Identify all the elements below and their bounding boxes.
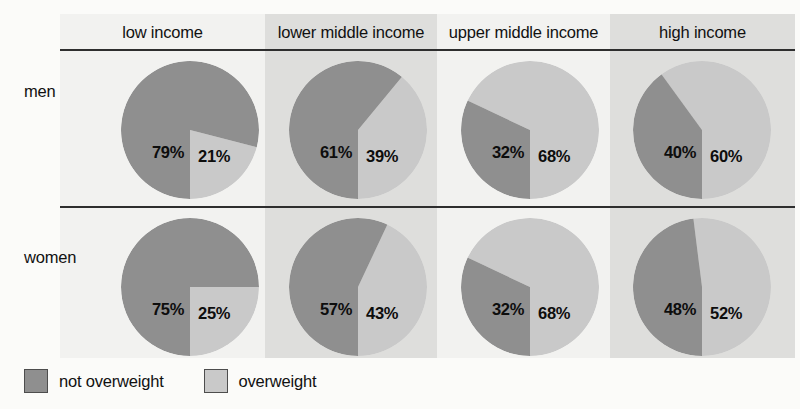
column-header-label: high income <box>659 23 746 42</box>
column-header-label: upper middle income <box>449 23 598 42</box>
pie-slice-label-overweight: 52% <box>710 304 742 323</box>
pie-cell-men-upper-middle-income: 32% 68% <box>450 55 610 205</box>
pie-slice-label-not-overweight: 32% <box>492 300 524 319</box>
column-header-high-income: high income <box>610 16 795 48</box>
pie-chart <box>289 218 427 356</box>
column-header-lower-middle-income: lower middle income <box>265 16 437 48</box>
column-header-row: low income lower middle income upper mid… <box>60 16 795 48</box>
row-label-women: women <box>24 248 104 267</box>
pie-slice-label-overweight: 21% <box>198 147 230 166</box>
legend-label: not overweight <box>59 372 164 391</box>
legend-swatch-not-overweight <box>24 369 48 393</box>
pie-slice-label-not-overweight: 57% <box>320 300 352 319</box>
pie-cell-women-high-income: 48% 52% <box>622 212 782 362</box>
pie-slice-label-not-overweight: 32% <box>492 143 524 162</box>
pie-cell-women-lower-middle-income: 57% 43% <box>278 212 438 362</box>
pie-chart <box>121 218 259 356</box>
pie-cell-women-low-income: 75% 25% <box>110 212 270 362</box>
pie-cell-women-upper-middle-income: 32% 68% <box>450 212 610 362</box>
pie-slice-label-overweight: 39% <box>366 147 398 166</box>
legend-label: overweight <box>239 372 317 391</box>
pie-chart <box>461 61 599 199</box>
pie-slice-label-not-overweight: 48% <box>664 300 696 319</box>
legend-item-not-overweight: not overweight <box>24 369 164 393</box>
column-header-low-income: low income <box>60 16 265 48</box>
row-label-men: men <box>24 82 104 101</box>
pie-slice-label-not-overweight: 79% <box>152 143 184 162</box>
pie-slice-label-overweight: 25% <box>198 304 230 323</box>
pie-slice-label-overweight: 60% <box>710 147 742 166</box>
pie-slice-label-not-overweight: 40% <box>664 143 696 162</box>
pie-slice-label-overweight: 68% <box>538 304 570 323</box>
pie-chart <box>633 218 771 356</box>
pie-chart <box>633 61 771 199</box>
header-divider-rule <box>60 49 795 51</box>
row-divider-rule <box>60 206 795 208</box>
pie-cell-men-high-income: 40% 60% <box>622 55 782 205</box>
pie-chart <box>121 61 259 199</box>
pie-slice-label-not-overweight: 75% <box>152 300 184 319</box>
pie-slice-label-not-overweight: 61% <box>320 143 352 162</box>
pie-chart <box>289 61 427 199</box>
pie-cell-men-low-income: 79% 21% <box>110 55 270 205</box>
pie-chart <box>461 218 599 356</box>
column-header-upper-middle-income: upper middle income <box>437 16 610 48</box>
pie-slice-label-overweight: 43% <box>366 304 398 323</box>
pie-cell-men-lower-middle-income: 61% 39% <box>278 55 438 205</box>
column-header-label: low income <box>122 23 203 42</box>
legend-swatch-overweight <box>204 369 228 393</box>
legend-item-overweight: overweight <box>204 369 317 393</box>
legend: not overweight overweight <box>24 364 356 398</box>
pie-slice-label-overweight: 68% <box>538 147 570 166</box>
pie-chart-matrix-figure: low income lower middle income upper mid… <box>0 0 800 409</box>
column-header-label: lower middle income <box>278 23 425 42</box>
